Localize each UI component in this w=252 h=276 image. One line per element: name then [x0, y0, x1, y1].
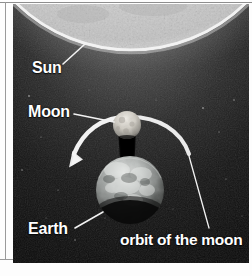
label-earth: Earth	[28, 221, 68, 237]
page-rule-left	[5, 2, 6, 260]
label-sun: Sun	[32, 60, 62, 76]
label-moon: Moon	[28, 104, 70, 120]
scanned-page: Sun Moon Earth orbit of the moon	[0, 0, 252, 276]
solar-system-figure: Sun Moon Earth orbit of the moon	[13, 4, 249, 263]
page-rule-top	[0, 2, 252, 3]
label-orbit-of-the-moon: orbit of the moon	[120, 232, 242, 248]
